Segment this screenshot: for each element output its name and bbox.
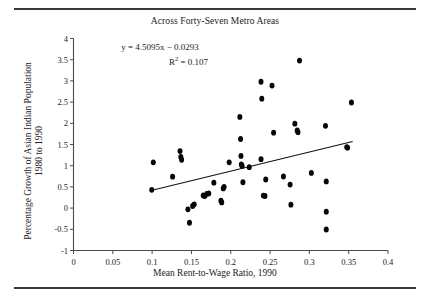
x-tick-label: 0.15 — [184, 257, 199, 267]
figure-container: Across Forty-Seven Metro Areas y = 4.509… — [0, 0, 430, 299]
ticks-group — [70, 39, 388, 255]
x-axis-label: Mean Rent-to-Wage Ratio, 1990 — [0, 268, 430, 278]
x-tick-label: 0.4 — [383, 257, 394, 267]
x-tick-label: 0.3 — [304, 257, 315, 267]
y-tick-label: 4 — [40, 34, 68, 44]
x-tick-label: 0.25 — [263, 257, 278, 267]
x-tick-label: 0.35 — [341, 257, 356, 267]
trend-line — [152, 141, 352, 190]
y-axis-label-line2: 1980 to 1990 — [34, 51, 45, 251]
data-points — [149, 58, 354, 233]
y-axis-label: Percentage Growth of Asian Indian Popula… — [23, 51, 45, 251]
x-tick-label: 0 — [71, 257, 75, 267]
x-tick-label: 0.1 — [147, 257, 158, 267]
y-axis-label-line1: Percentage Growth of Asian Indian Popula… — [23, 62, 33, 240]
x-tick-label: 0.2 — [225, 257, 236, 267]
x-tick-label: 0.05 — [105, 257, 120, 267]
